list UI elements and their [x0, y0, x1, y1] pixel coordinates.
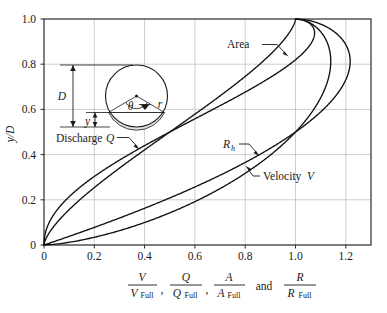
x-title-t4-den: R [286, 287, 294, 299]
y-arrowhead-bottom [93, 122, 98, 127]
x-tick-0: 0 [41, 250, 47, 262]
radius-label: r [158, 98, 163, 110]
x-title-conjunction: and [256, 280, 273, 292]
depth-label: y [84, 115, 91, 128]
y-axis-tick-labels: 0 0.2 0.4 0.6 0.8 1.0 [22, 13, 37, 251]
x-title-t3-num: A [224, 271, 233, 283]
annotation-velocity: Velocity V [246, 166, 317, 183]
pipe-center-point [135, 95, 138, 98]
x-title-t2-num: Q [182, 271, 191, 283]
y-axis-title-text: y/D [4, 125, 17, 143]
discharge-symbol: Q [106, 132, 115, 144]
discharge-label: Discharge [56, 132, 102, 145]
x-tick-1: 0.2 [87, 250, 102, 262]
theta-label: θ [128, 100, 134, 112]
x-title-t1-num: V [138, 271, 147, 283]
annotation-discharge: Discharge Q [56, 132, 140, 150]
rh-symbol: R [222, 138, 230, 150]
x-tick-6: 1.2 [339, 250, 354, 262]
x-title-t2-den-sub: Full [185, 291, 199, 300]
velocity-symbol: V [307, 170, 316, 182]
y-tick-2: 0.4 [22, 149, 37, 161]
x-title-t4-den-sub: Full [299, 291, 313, 300]
chart-figure: 0 0.2 0.4 0.6 0.8 1.0 1.2 0 0.2 0.4 0.6 … [0, 0, 387, 313]
d-arrowhead-bottom [70, 121, 75, 127]
annotation-area: Area [227, 38, 289, 57]
x-title-t3-den: A [216, 287, 225, 299]
rh-leader-arrowhead [254, 151, 260, 156]
x-title-t3-den-sub: Full [228, 291, 242, 300]
rh-subscript: h [231, 144, 235, 153]
pipe-cross-section-diagram: θ r D y [57, 65, 168, 130]
y-tick-1: 0.2 [22, 194, 37, 206]
x-axis-title: V V Full , Q Q Full , A A Full and R R F… [128, 271, 316, 300]
area-leader-arrowhead [283, 52, 289, 57]
y-tick-3: 0.6 [22, 103, 37, 115]
area-label: Area [227, 38, 249, 50]
d-arrowhead-top [70, 65, 75, 71]
diameter-label: D [57, 90, 67, 102]
y-tick-5: 1.0 [22, 13, 37, 25]
x-title-comma-1: , [161, 283, 164, 296]
y-arrowhead-top [93, 113, 98, 118]
x-title-t1-den: V [130, 287, 139, 299]
discharge-leader-arrowhead [134, 144, 140, 149]
x-tick-3: 0.6 [188, 250, 203, 262]
y-tick-4: 0.8 [22, 58, 37, 70]
x-tick-5: 1.0 [288, 250, 303, 262]
x-title-t1-den-sub: Full [141, 291, 155, 300]
x-title-t4-num: R [295, 271, 303, 283]
x-tick-4: 0.8 [238, 250, 253, 262]
area-leader-line [262, 45, 286, 55]
rh-leader-line [239, 144, 257, 153]
discharge-leader-line [117, 138, 137, 147]
y-axis-title: y/D [4, 125, 17, 143]
x-tick-2: 0.4 [137, 250, 152, 262]
x-title-t2-den: Q [173, 287, 182, 299]
annotation-rh: R h [222, 138, 260, 156]
velocity-label: Velocity [263, 170, 302, 183]
x-axis-tick-labels: 0 0.2 0.4 0.6 0.8 1.0 1.2 [41, 250, 353, 262]
x-title-comma-2: , [206, 283, 209, 296]
y-tick-0: 0 [30, 239, 36, 251]
